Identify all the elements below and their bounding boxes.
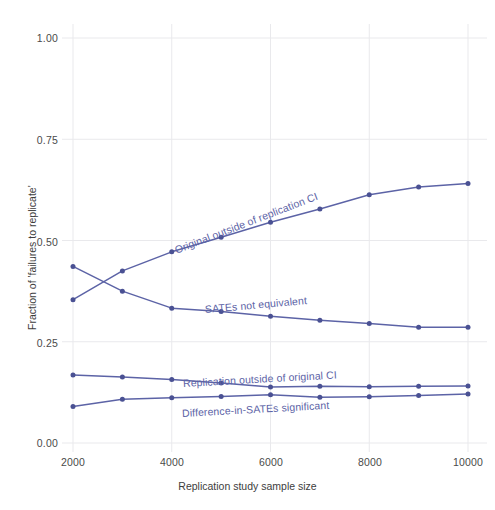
- y-tick-label-1.00: 1.00: [14, 32, 58, 44]
- line-chart: 1.00 0.75 0.50 0.25 0.00 2000 4000 6000 …: [0, 0, 495, 510]
- data-point: [317, 206, 322, 211]
- data-point: [169, 249, 174, 254]
- x-axis-title: Replication study sample size: [0, 480, 495, 492]
- data-point: [120, 268, 125, 273]
- data-point: [466, 383, 471, 388]
- data-point: [169, 306, 174, 311]
- x-tick-label-2000: 2000: [43, 456, 103, 468]
- x-tick-label-6000: 6000: [241, 456, 301, 468]
- data-point: [120, 374, 125, 379]
- data-point: [317, 384, 322, 389]
- data-point: [169, 395, 174, 400]
- data-point: [71, 264, 76, 269]
- data-point: [367, 192, 372, 197]
- x-tick-label-10000: 10000: [438, 456, 495, 468]
- data-point: [120, 397, 125, 402]
- data-point: [367, 321, 372, 326]
- x-tick-label-8000: 8000: [340, 456, 400, 468]
- x-tick-label-4000: 4000: [142, 456, 202, 468]
- y-tick-label-0.00: 0.00: [14, 437, 58, 449]
- data-point: [466, 392, 471, 397]
- data-point: [268, 392, 273, 397]
- data-point: [268, 385, 273, 390]
- data-point: [367, 394, 372, 399]
- data-point: [466, 325, 471, 330]
- data-point: [219, 394, 224, 399]
- data-point: [169, 377, 174, 382]
- data-point: [71, 404, 76, 409]
- data-point: [268, 314, 273, 319]
- data-point: [71, 372, 76, 377]
- y-axis-title: Fraction of 'failures to replicate': [26, 185, 38, 330]
- data-point: [367, 384, 372, 389]
- data-point: [416, 325, 421, 330]
- chart-canvas: [0, 0, 495, 510]
- y-tick-label-0.75: 0.75: [14, 134, 58, 146]
- data-point: [268, 220, 273, 225]
- gridlines: [62, 24, 487, 452]
- data-point: [416, 393, 421, 398]
- data-point: [71, 297, 76, 302]
- data-point: [466, 181, 471, 186]
- data-point: [416, 384, 421, 389]
- data-point: [416, 185, 421, 190]
- data-point: [317, 318, 322, 323]
- data-point: [120, 289, 125, 294]
- y-tick-label-0.25: 0.25: [14, 337, 58, 349]
